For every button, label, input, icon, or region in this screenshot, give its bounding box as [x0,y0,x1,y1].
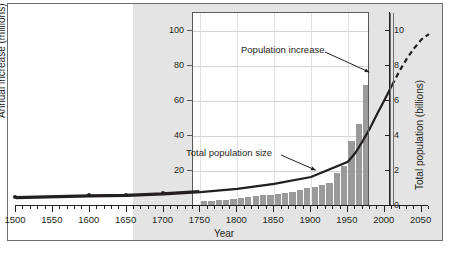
total-population-line-early [15,191,199,197]
annotation-arrows [0,0,450,256]
arrow-total-population-size [281,155,316,170]
population-growth-figure: 20406080100 0246810 15001550160016501700… [0,0,450,256]
arrow-population-increase [325,52,369,72]
